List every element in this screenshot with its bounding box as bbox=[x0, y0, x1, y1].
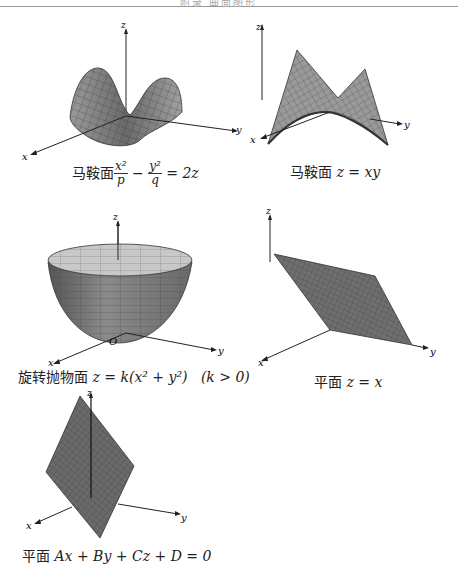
paraboloid-figure: z O y x bbox=[0, 200, 240, 365]
y-axis-label: y bbox=[217, 345, 224, 356]
z-axis-label: z bbox=[86, 388, 92, 398]
saddle-2-caption: 马鞍面 z = xy bbox=[290, 161, 380, 181]
x-axis-label: x bbox=[26, 520, 32, 531]
saddle-surface-figure: z x bbox=[0, 20, 240, 160]
plane-zx-figure: z x y bbox=[240, 200, 458, 365]
x-axis-label: x bbox=[22, 151, 28, 162]
saddle-1-caption: 马鞍面x²p − y²q = 2z bbox=[72, 160, 199, 187]
page-header: 附录 曲面图形 bbox=[180, 0, 257, 9]
plane-1-caption: 平面 z = x bbox=[314, 371, 382, 391]
x-axis-label: x bbox=[258, 357, 264, 368]
z-axis-label: z bbox=[112, 212, 118, 222]
z-axis-label: z bbox=[120, 20, 126, 30]
x-axis-label: x bbox=[250, 134, 256, 145]
saddle-xy-figure: z x y bbox=[240, 20, 458, 150]
origin-label: O bbox=[109, 336, 117, 347]
z-axis-label: z bbox=[255, 22, 261, 32]
y-axis-label: y bbox=[180, 512, 187, 523]
y-axis-label: y bbox=[236, 124, 242, 135]
z-axis-label: z bbox=[265, 206, 271, 216]
y-axis-label: y bbox=[403, 119, 410, 130]
y-axis-label: y bbox=[429, 346, 436, 357]
plane-general-figure: z x y bbox=[0, 390, 240, 540]
plane-2-caption: 平面 Ax + By + Cz + D = 0 bbox=[22, 545, 211, 565]
paraboloid-caption: 旋转抛物面 z = k(x² + y²) (k > 0) bbox=[18, 366, 250, 386]
